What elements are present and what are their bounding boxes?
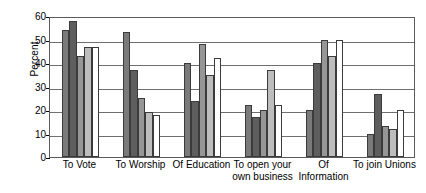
y-axis-tick-label: 10: [18, 129, 46, 141]
bar: [69, 21, 77, 157]
bar: [206, 75, 214, 157]
bar: [374, 94, 382, 157]
x-axis-category-label: To join Unions: [339, 159, 426, 171]
bar: [328, 56, 336, 157]
bar: [77, 56, 85, 157]
y-axis-tick-label: 50: [18, 35, 46, 47]
bar-chart-figure: Percent 0102030405060 To VoteTo WorshipO…: [0, 0, 426, 193]
bar: [306, 110, 314, 157]
bar: [62, 30, 70, 157]
bar-group: [62, 18, 100, 157]
bar-group: [184, 18, 222, 157]
y-axis-tick-label: 40: [18, 58, 46, 70]
bar: [84, 47, 92, 157]
bar-group: [367, 18, 405, 157]
bar: [245, 105, 253, 157]
x-axis-category-labels: To VoteTo WorshipOf EducationTo open you…: [49, 159, 415, 193]
bar: [275, 105, 283, 157]
bar-group: [306, 18, 344, 157]
bar: [130, 70, 138, 157]
bar: [191, 101, 199, 157]
y-axis-tick-label: 20: [18, 105, 46, 117]
bar: [313, 63, 321, 157]
bar: [252, 117, 260, 157]
bar: [123, 32, 131, 157]
bar: [382, 126, 390, 157]
bar: [321, 40, 329, 158]
bar: [260, 110, 268, 157]
bar: [389, 129, 397, 157]
bar: [367, 134, 375, 158]
bar: [145, 112, 153, 157]
bar: [214, 58, 222, 157]
bar: [397, 110, 405, 157]
bar-group: [123, 18, 161, 157]
y-axis-tick-label: 60: [18, 11, 46, 23]
x-axis-category-label-line: To join Unions: [339, 159, 426, 171]
plot-area: [49, 17, 415, 158]
bar: [184, 63, 192, 157]
y-axis-tick-label: 30: [18, 82, 46, 94]
x-axis-category-label-line: Information: [278, 171, 370, 183]
bar: [267, 70, 275, 157]
bars-layer: [50, 18, 414, 157]
bar: [153, 115, 161, 157]
bar: [138, 98, 146, 157]
bar: [92, 47, 100, 157]
bar: [336, 40, 344, 158]
bar: [199, 44, 207, 157]
bar-group: [245, 18, 283, 157]
y-axis-tick-labels: 0102030405060: [18, 11, 46, 163]
